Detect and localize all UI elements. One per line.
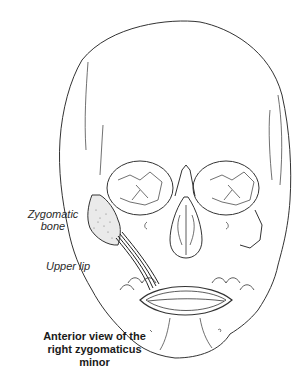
- zygomatic-bone-label: Zygomatic bone: [22, 208, 84, 232]
- zygomaticus-minor-muscle: [116, 232, 159, 290]
- upper-teeth: [120, 278, 254, 290]
- caption-line1: Anterior view of the: [37, 330, 152, 343]
- anatomy-figure: Zygomatic bone Upper lip Anterior view o…: [0, 0, 307, 391]
- zygomatic-bone: [88, 195, 120, 245]
- figure-caption: Anterior view of the right zygomaticus m…: [37, 330, 152, 369]
- upper-lip-label: Upper lip: [46, 260, 90, 272]
- right-orbit: [107, 161, 173, 215]
- left-orbit: [193, 161, 259, 215]
- cranium-left-side: [59, 60, 82, 228]
- caption-line2: right zygomaticus minor: [37, 343, 152, 369]
- zygomatic-label-line2: bone: [22, 220, 84, 232]
- zygomatic-label-line1: Zygomatic: [22, 208, 84, 220]
- lips-inner: [146, 291, 226, 311]
